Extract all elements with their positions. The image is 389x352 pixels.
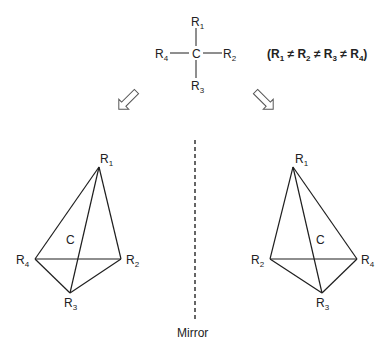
left-bottom-label: R3: [64, 296, 78, 312]
right-right-label: R4: [361, 253, 375, 269]
right-center-label: C: [316, 233, 325, 247]
left-tetrahedron: [35, 167, 121, 293]
fischer-center-label: C: [192, 47, 201, 61]
inequality-condition: (R1 ≠ R2 ≠ R3 ≠ R4): [267, 47, 367, 63]
right-bottom-label: R3: [316, 296, 330, 312]
right-left-label: R2: [251, 253, 265, 269]
arrow-down-left-icon: [114, 87, 142, 115]
right-tetrahedron: [270, 167, 357, 293]
mirror-label: Mirror: [177, 326, 208, 340]
arrow-down-right-icon: [251, 87, 279, 115]
right-apex-label: R1: [295, 152, 309, 168]
fischer-right-label: R2: [223, 47, 237, 63]
left-center-label: C: [66, 233, 75, 247]
left-left-label: R4: [16, 253, 30, 269]
fischer-top-label: R1: [191, 15, 205, 31]
left-right-label: R2: [126, 253, 140, 269]
fischer-projection: C R1 R2 R3 R4: [155, 15, 237, 95]
enantiomer-diagram: C R1 R2 R3 R4 (R1 ≠ R2 ≠ R3 ≠ R4) Mirror…: [0, 0, 389, 352]
fischer-bottom-label: R3: [191, 79, 205, 95]
left-apex-label: R1: [100, 152, 114, 168]
fischer-left-label: R4: [155, 47, 169, 63]
